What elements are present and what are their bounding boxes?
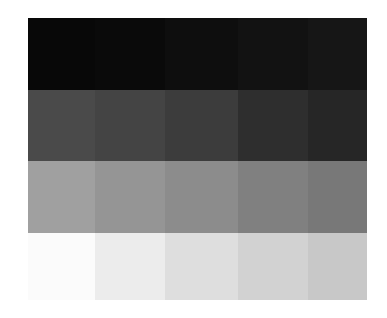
swatch-r1-c1 [28,18,95,90]
swatch-r3-c1 [28,161,95,233]
swatch-r1-c3 [165,18,238,90]
swatch-r4-c5 [308,233,367,300]
swatch-r1-c2 [95,18,165,90]
grayscale-swatch-grid [28,18,367,300]
swatch-r3-c2 [95,161,165,233]
swatch-r2-c5 [308,90,367,161]
swatch-r3-c4 [238,161,308,233]
swatch-r4-c3 [165,233,238,300]
swatch-r3-c5 [308,161,367,233]
swatch-r4-c4 [238,233,308,300]
swatch-r2-c3 [165,90,238,161]
swatch-r2-c1 [28,90,95,161]
swatch-r4-c1 [28,233,95,300]
swatch-r2-c2 [95,90,165,161]
swatch-r4-c2 [95,233,165,300]
swatch-r1-c4 [238,18,308,90]
swatch-r3-c3 [165,161,238,233]
swatch-r2-c4 [238,90,308,161]
swatch-r1-c5 [308,18,367,90]
